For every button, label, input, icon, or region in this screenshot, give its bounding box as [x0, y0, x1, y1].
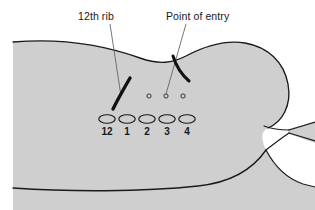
- vertebra-number: 12: [98, 126, 116, 137]
- vertebra-number: 2: [138, 126, 156, 137]
- gluteal-cleft-lower: [266, 133, 289, 150]
- vertebra-number: 3: [158, 126, 176, 137]
- label-twelfth-rib: 12th rib: [78, 10, 114, 22]
- anatomy-illustration: [0, 0, 315, 210]
- vertebra-number: 1: [118, 126, 136, 137]
- figure-container: 12th rib Point of entry 12 1 2 3 4: [0, 0, 315, 210]
- label-point-of-entry: Point of entry: [166, 10, 229, 22]
- vertebra-number: 4: [178, 126, 196, 137]
